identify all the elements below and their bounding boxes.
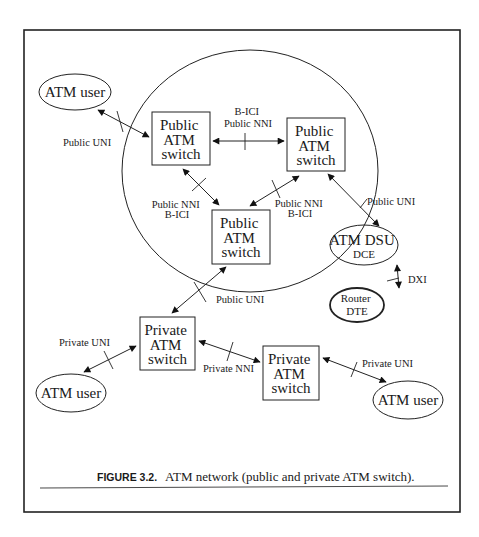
atm-network-diagram: ATM user Public ATM switch Public ATM sw… <box>0 0 479 537</box>
edge-label-private-uni-right: Private UNI <box>362 358 414 369</box>
figure-caption-label: FIGURE 3.2. <box>97 471 157 483</box>
edge-label-bici-left: B-ICI <box>165 209 190 220</box>
atm-dsu-line2: DCE <box>353 248 375 260</box>
atm-user-top-label: ATM user <box>45 84 105 100</box>
edge-label-dxi: DXI <box>408 274 427 285</box>
router-line1: Router <box>341 292 371 304</box>
edge-label-public-uni-top: Public UNI <box>63 137 112 148</box>
edge-label-public-nni-top: Public NNI <box>224 118 273 129</box>
svg-text:Public ATM switch: Public ATM switch <box>220 215 262 260</box>
private-switch-2-line1: Private <box>268 351 311 367</box>
figure-frame <box>24 30 460 512</box>
edge-label-bici-top: B-ICI <box>234 106 259 117</box>
public-switch-3-line1: Public <box>220 215 259 231</box>
svg-text:Public ATM switch: Public ATM switch <box>295 123 337 168</box>
svg-text:Public ATM switch: Public ATM switch <box>160 117 202 162</box>
edge-label-bici-right: B-ICI <box>288 208 313 219</box>
edge-label-public-uni-dsu: Public UNI <box>367 196 416 207</box>
public-switch-1-line3: switch <box>161 146 201 162</box>
edge-label-private-uni-left: Private UNI <box>59 337 111 348</box>
router-line2: DTE <box>346 305 368 317</box>
svg-text:Private ATM switch: Private ATM switch <box>144 322 190 367</box>
private-switch-1-line3: switch <box>148 351 188 367</box>
private-switch-1-line1: Private <box>144 322 187 338</box>
atm-user-bottom-left-label: ATM user <box>41 385 101 401</box>
public-switch-3-line3: switch <box>221 244 261 260</box>
atm-user-bottom-right-label: ATM user <box>378 392 438 408</box>
public-switch-1-line1: Public <box>160 117 199 133</box>
edge-label-public-uni-bottom: Public UNI <box>216 294 265 305</box>
figure-caption-text: ATM network (public and private ATM swit… <box>165 469 414 484</box>
public-switch-2-line3: switch <box>296 152 336 168</box>
svg-text:Private ATM switch: Private ATM switch <box>268 351 314 396</box>
public-switch-2-line1: Public <box>295 123 334 139</box>
private-switch-2-line3: switch <box>271 380 311 396</box>
edge-label-private-nni: Private NNI <box>203 363 255 374</box>
atm-dsu-line1: ATM DSU <box>329 232 395 248</box>
